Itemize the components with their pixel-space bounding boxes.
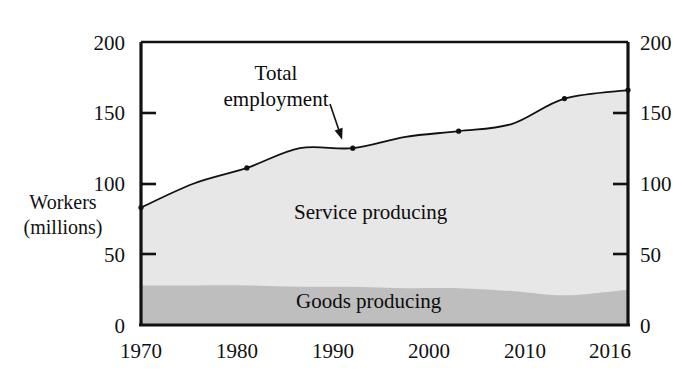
- data-point-1980: [244, 165, 249, 170]
- total-employment-callout-line1: Total: [212, 60, 340, 86]
- data-point-2000: [456, 129, 461, 134]
- employment-area-chart: 200 150 100 50 0 200 150 100 50 0 Worker…: [0, 0, 687, 379]
- data-point-1990: [350, 146, 355, 151]
- data-point-2010: [562, 96, 567, 101]
- service-producing-label: Service producing: [294, 200, 447, 225]
- plot-area: [0, 0, 687, 379]
- total-employment-callout: Total employment: [212, 60, 340, 112]
- goods-producing-label: Goods producing: [296, 289, 441, 314]
- total-employment-callout-line2: employment: [212, 86, 340, 112]
